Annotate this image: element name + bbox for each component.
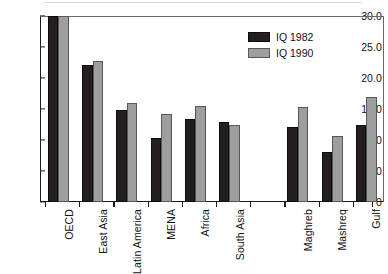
x-axis-category-label: Africa (199, 209, 211, 236)
x-axis-tick-mark (182, 202, 183, 207)
x-axis-category-label: South Asia (234, 209, 246, 260)
bar-group (110, 16, 144, 202)
bar-series-1982 (287, 127, 297, 202)
chart-legend: IQ 1982IQ 1990 (248, 31, 313, 59)
legend-item: IQ 1990 (248, 47, 313, 59)
bar-group (144, 16, 178, 202)
legend-label: IQ 1982 (276, 32, 313, 43)
x-axis-category-label: Latin America (131, 209, 143, 274)
x-axis-category-label: OECD (63, 209, 75, 240)
bar-series-1990 (195, 106, 205, 202)
x-axis-category-label: Mashreq (336, 209, 348, 251)
x-axis-tick-mark (250, 202, 251, 207)
bars-layer (41, 16, 383, 202)
x-axis-tick-mark (319, 202, 320, 207)
legend-item: IQ 1982 (248, 31, 313, 43)
x-axis-category-label: Maghreb (302, 209, 314, 251)
x-axis-tick-mark (216, 202, 217, 207)
bar-group (178, 16, 212, 202)
x-axis-category-label: East Asia (97, 209, 109, 254)
legend-swatch-icon (248, 32, 270, 42)
x-axis-tick-mark (113, 202, 114, 207)
bar-series-1982 (219, 122, 229, 202)
bar-series-1990 (127, 103, 137, 202)
x-axis-tick-mark (45, 202, 46, 207)
bar-series-1982 (322, 152, 332, 202)
bar-series-1990 (229, 125, 239, 202)
bar-group (76, 16, 110, 202)
bar-series-1982 (116, 110, 126, 202)
bar-series-1990 (366, 97, 376, 202)
bar-group (349, 16, 383, 202)
bar-series-1990 (332, 136, 342, 202)
x-axis-category-label: Gulf (370, 209, 382, 229)
bar-series-1982 (185, 119, 195, 202)
x-axis-tick-mark (353, 202, 354, 207)
bar-group (212, 16, 246, 202)
x-axis-tick-mark (148, 202, 149, 207)
x-axis-category-label: MENA (165, 209, 177, 240)
legend-label: IQ 1990 (276, 48, 313, 59)
bar-series-1990 (58, 16, 68, 202)
legend-swatch-icon (248, 48, 270, 58)
bar-series-1982 (151, 138, 161, 202)
x-axis-tick-mark (79, 202, 80, 207)
bar-series-1990 (298, 107, 308, 202)
x-axis-tick-mark (372, 202, 373, 207)
top-rule-divider (44, 2, 362, 3)
bar-series-1990 (93, 61, 103, 202)
bar-series-1982 (82, 65, 92, 202)
bar-group (315, 16, 349, 202)
bar-group (41, 16, 75, 202)
bar-series-1990 (161, 114, 171, 202)
bar-series-1982 (48, 16, 58, 202)
x-axis-tick-mark (284, 202, 285, 207)
bar-series-1982 (356, 125, 366, 202)
